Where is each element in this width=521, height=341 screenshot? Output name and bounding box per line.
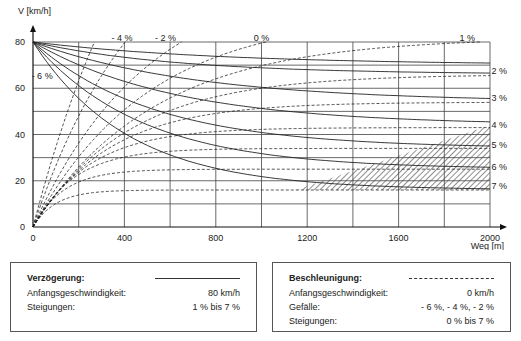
legend-deceleration: Verzögerung: Anfangsgeschwindigkeit: 80 …	[10, 262, 257, 332]
svg-text:400: 400	[117, 233, 132, 243]
svg-text:1600: 1600	[389, 233, 409, 243]
legend-value: 1 % bis 7 %	[192, 302, 240, 312]
svg-text:4 %: 4 %	[491, 120, 507, 130]
legend-value: - 6 %, - 4 %, - 2 %	[421, 302, 494, 312]
svg-text:0: 0	[30, 233, 35, 243]
speed-distance-chart: 0400800120016002000020406080V [km/h]Weg …	[0, 0, 521, 250]
svg-text:- 6 %: - 6 %	[32, 71, 53, 81]
svg-text:0: 0	[20, 222, 25, 232]
dashed-line-swatch	[409, 278, 494, 279]
svg-text:2 %: 2 %	[491, 66, 507, 76]
svg-text:6 %: 6 %	[491, 162, 507, 172]
legend-acceleration-title: Beschleunigung:	[289, 273, 362, 283]
legend-acceleration: Beschleunigung: Anfangsgeschwindigkeit: …	[272, 262, 511, 332]
svg-text:800: 800	[208, 233, 223, 243]
legend-label: Gefälle:	[289, 302, 320, 312]
svg-text:- 4 %: - 4 %	[112, 33, 133, 43]
legend-label: Anfangsgeschwindigkeit:	[27, 288, 126, 298]
svg-text:Weg [m]: Weg [m]	[471, 241, 504, 250]
svg-text:V [km/h]: V [km/h]	[18, 6, 51, 16]
svg-text:0 %: 0 %	[254, 33, 270, 43]
svg-text:1 %: 1 %	[459, 33, 475, 43]
labels: 0400800120016002000020406080V [km/h]Weg …	[15, 6, 507, 250]
svg-text:1200: 1200	[297, 233, 317, 243]
svg-text:80: 80	[15, 37, 25, 47]
solid-line-swatch	[155, 278, 240, 279]
grid	[33, 42, 490, 227]
svg-text:3 %: 3 %	[491, 93, 507, 103]
legend-label: Steigungen:	[27, 302, 75, 312]
legend-label: Anfangsgeschwindigkeit:	[289, 288, 388, 298]
svg-text:- 2 %: - 2 %	[155, 33, 176, 43]
svg-text:7 %: 7 %	[491, 181, 507, 191]
legend-label: Steigungen:	[289, 316, 337, 326]
legend-deceleration-title: Verzögerung:	[27, 273, 85, 283]
svg-text:60: 60	[15, 83, 25, 93]
svg-text:20: 20	[15, 176, 25, 186]
legend-value: 0 km/h	[467, 288, 494, 298]
legend-value: 0 % bis 7 %	[446, 316, 494, 326]
svg-text:40: 40	[15, 130, 25, 140]
legend-value: 80 km/h	[208, 288, 240, 298]
svg-text:5 %: 5 %	[491, 140, 507, 150]
